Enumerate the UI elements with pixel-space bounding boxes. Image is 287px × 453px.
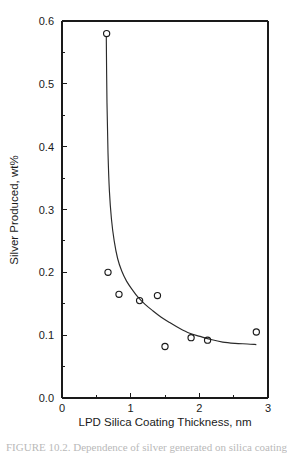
data-point-markers	[104, 30, 260, 349]
x-tick-label: 3	[265, 402, 271, 414]
y-tick-label: 0.1	[39, 329, 54, 341]
x-tick-label: 0	[59, 402, 65, 414]
data-point	[154, 292, 160, 298]
data-point	[188, 335, 194, 341]
fitted-decay-curve	[106, 37, 256, 345]
silver-produced-vs-coating-thickness-chart: 0.00.10.20.30.40.50.6 0123 LPD Silica Co…	[0, 0, 287, 453]
data-point	[105, 269, 111, 275]
y-tick-label: 0.4	[39, 141, 54, 153]
x-tick-label: 1	[128, 402, 134, 414]
data-point	[116, 291, 122, 297]
figure-caption-strip: FIGURE 10.2. Dependence of silver genera…	[0, 441, 287, 453]
y-tick-label: 0.6	[39, 15, 54, 27]
y-tick-label: 0.0	[39, 392, 54, 404]
y-axis-tick-labels: 0.00.10.20.30.40.50.6	[39, 15, 54, 404]
figure-caption: FIGURE 10.2. Dependence of silver genera…	[6, 441, 287, 453]
y-axis-ticks	[62, 21, 67, 398]
data-point	[253, 329, 259, 335]
data-point	[162, 343, 168, 349]
y-axis-title: Silver Produced, wt%	[8, 155, 20, 264]
y-tick-label: 0.2	[39, 266, 54, 278]
y-tick-label: 0.5	[39, 78, 54, 90]
figure-container: 0.00.10.20.30.40.50.6 0123 LPD Silica Co…	[0, 0, 287, 453]
x-axis-ticks	[62, 393, 268, 398]
x-axis-title: LPD Silica Coating Thickness, nm	[79, 416, 252, 428]
data-point	[104, 30, 110, 36]
y-tick-label: 0.3	[39, 204, 54, 216]
x-axis-tick-labels: 0123	[59, 402, 271, 414]
x-tick-label: 2	[196, 402, 202, 414]
data-point	[204, 337, 210, 343]
plot-frame	[62, 21, 268, 398]
